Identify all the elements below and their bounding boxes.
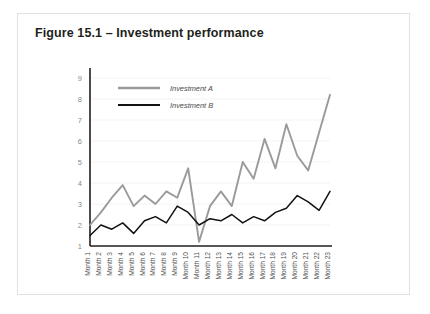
figure-card: Figure 15.1 – Investment performance 123…	[17, 13, 410, 295]
x-axis-tick-labels: Month 1Month 2Month 3Month 4Month 5Month…	[84, 252, 331, 280]
legend-label: Investment B	[170, 101, 213, 110]
x-axis-tick-label: Month 9	[171, 252, 178, 276]
y-axis-tick-label: 8	[78, 95, 82, 104]
x-axis-tick-label: Month 8	[160, 252, 167, 276]
x-axis-tick-label: Month 18	[269, 252, 276, 280]
x-axis-tick-label: Month 21	[302, 252, 309, 280]
y-axis-tick-label: 3	[78, 200, 82, 209]
x-axis-tick-label: Month 1	[84, 252, 91, 276]
x-axis-tick-label: Month 13	[215, 252, 222, 280]
x-axis-tick-label: Month 7	[149, 252, 156, 276]
x-axis-tick-label: Month 6	[139, 252, 146, 276]
y-axis-tick-labels: 123456789	[78, 74, 82, 251]
series-line-investment-a	[90, 95, 330, 242]
x-axis-tick-label: Month 23	[324, 252, 331, 280]
x-axis-tick-label: Month 15	[237, 252, 244, 280]
y-axis-tick-label: 7	[78, 116, 82, 125]
figure-title: Figure 15.1 – Investment performance	[35, 26, 264, 40]
y-axis-tick-label: 1	[78, 242, 82, 251]
x-axis-tick-label: Month 16	[248, 252, 255, 280]
x-axis-tick-label: Month 10	[182, 252, 189, 280]
y-axis-tick-label: 4	[78, 179, 82, 188]
x-axis-tick-label: Month 19	[280, 252, 287, 280]
data-series	[90, 95, 330, 242]
x-axis-tick-label: Month 4	[117, 252, 124, 276]
x-axis-tick-label: Month 12	[204, 252, 211, 280]
y-axis-tick-label: 2	[78, 221, 82, 230]
x-axis-tick-label: Month 17	[259, 252, 266, 280]
x-axis-tick-label: Month 11	[193, 252, 200, 279]
series-line-investment-b	[90, 191, 330, 235]
x-axis-tick-label: Month 2	[95, 252, 102, 276]
y-axis-tick-label: 5	[78, 158, 82, 167]
y-axis-tick-label: 9	[78, 74, 82, 83]
x-axis-tick-label: Month 3	[106, 252, 113, 276]
chart-legend: Investment AInvestment B	[118, 84, 213, 110]
y-axis-tick-label: 6	[78, 137, 82, 146]
x-axis-tick-label: Month 22	[313, 252, 320, 280]
chart-svg: 123456789 Month 1Month 2Month 3Month 4Mo…	[18, 44, 411, 296]
investment-performance-chart: 123456789 Month 1Month 2Month 3Month 4Mo…	[18, 44, 411, 296]
legend-label: Investment A	[170, 84, 213, 93]
x-axis-tick-label: Month 5	[128, 252, 135, 276]
x-axis-tick-label: Month 20	[291, 252, 298, 280]
x-axis-tick-label: Month 14	[226, 252, 233, 280]
